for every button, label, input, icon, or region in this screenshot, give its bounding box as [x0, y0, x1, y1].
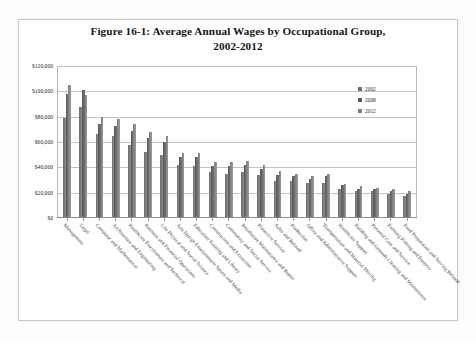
bar-group [156, 66, 172, 218]
bar-2012 [246, 161, 249, 218]
bar-2012 [392, 189, 395, 218]
bar-group [140, 66, 156, 218]
tick-mark [358, 218, 359, 221]
bar-group [383, 66, 399, 218]
figure-title-line-1: Figure 16-1: Average Annual Wages by Occ… [40, 24, 436, 39]
bar-2012 [230, 162, 233, 218]
bar-group [318, 66, 334, 218]
category-label-cell: Education Training and Library [189, 222, 205, 318]
category-label-cell: Healthcare Support [334, 222, 350, 318]
category-label-cell: Healthcare Practitioners and Technical [124, 222, 140, 318]
y-axis-tick-label: $20,000 [35, 190, 53, 196]
bar-group [59, 66, 75, 218]
bar-group [91, 66, 107, 218]
bar-2012 [182, 153, 185, 218]
y-axis-tick-label: $80,000 [35, 114, 53, 120]
bar-group [75, 66, 91, 218]
tick-mark [374, 218, 375, 221]
tick-mark [67, 218, 68, 221]
legend-swatch [358, 98, 362, 102]
y-axis-tick-label: $40,000 [35, 164, 53, 170]
tick-mark [164, 218, 165, 221]
y-axis-tick-label: $120,000 [32, 63, 53, 69]
tick-mark [131, 218, 132, 221]
bar-group [221, 66, 237, 218]
bar-group [205, 66, 221, 218]
y-axis-tick-label: $60,000 [35, 139, 53, 145]
bar-2012 [295, 174, 298, 218]
legend-entry: 2002 [358, 86, 376, 92]
bar-group [172, 66, 188, 218]
x-axis-category-labels: ManagementLegalComputer and Mathematical… [57, 222, 417, 318]
bar-group [334, 66, 350, 218]
bar-2012 [263, 165, 266, 218]
bar-2012 [279, 171, 282, 218]
category-label-cell: Protective Service [253, 222, 269, 318]
legend-entry: 2008 [358, 97, 376, 103]
legend-swatch [358, 87, 362, 91]
bar-group [399, 66, 415, 218]
tick-mark [228, 218, 229, 221]
bar-2012 [133, 124, 136, 218]
legend-label: 2008 [365, 97, 376, 103]
figure-title: Figure 16-1: Average Annual Wages by Occ… [40, 24, 436, 53]
tick-mark [245, 218, 246, 221]
category-label-cell: Production [286, 222, 302, 318]
bar-2012 [327, 174, 330, 218]
category-label-cell: Arts Design Entertainment Sports and Med… [172, 222, 188, 318]
category-label-cell: Building and Grounds Cleaning and Mainte… [350, 222, 366, 318]
category-label-cell: Legal [75, 222, 91, 318]
tick-mark [212, 218, 213, 221]
category-label-cell: Computer and Mathematical [91, 222, 107, 318]
bar-group [253, 66, 269, 218]
bar-group [189, 66, 205, 218]
chart-legend: 200220082012 [358, 86, 376, 119]
bar-2012 [85, 95, 88, 218]
legend-swatch [358, 109, 362, 113]
category-label-cell: Transportation and Material Moving [318, 222, 334, 318]
legend-label: 2012 [365, 108, 376, 114]
tick-mark [342, 218, 343, 221]
y-axis-tick-label: $100,000 [32, 88, 53, 94]
category-label-cell: Personal Care and Service [367, 222, 383, 318]
bar-2012 [360, 186, 363, 218]
bar-2012 [214, 162, 217, 218]
bar-group [124, 66, 140, 218]
bar-group [302, 66, 318, 218]
bar-2012 [311, 176, 314, 218]
tick-mark [99, 218, 100, 221]
bar-2012 [149, 132, 152, 218]
category-label: Legal [79, 222, 91, 235]
bar-2012 [344, 184, 347, 218]
bar-group [108, 66, 124, 218]
tick-mark [261, 218, 262, 221]
category-label-cell: Construction and Extraction [205, 222, 221, 318]
bar-2012 [408, 191, 411, 218]
tick-mark [148, 218, 149, 221]
category-label-cell: Office and Administrative Support [302, 222, 318, 318]
bar-2012 [68, 85, 71, 218]
bar-group [286, 66, 302, 218]
bar-2012 [166, 136, 169, 218]
category-label-cell: Architecture and Engineering [108, 222, 124, 318]
category-label-cell: Sales and Related [269, 222, 285, 318]
figure-page: Figure 16-1: Average Annual Wages by Occ… [0, 0, 476, 343]
category-label-cell: Food Preparation and Serving Related [399, 222, 415, 318]
bar-2012 [101, 117, 104, 218]
tick-mark [326, 218, 327, 221]
y-axis-tick-label: $0 [47, 215, 53, 221]
bar-group [269, 66, 285, 218]
category-label-cell: Community and Social Service [221, 222, 237, 318]
category-label-cell: Business and Financial Operations [140, 222, 156, 318]
tick-mark [390, 218, 391, 221]
bar-group [237, 66, 253, 218]
bar-2012 [198, 153, 201, 218]
tick-mark [115, 218, 116, 221]
category-label-cell: Installation Maintenance and Repair [237, 222, 253, 318]
tick-mark [293, 218, 294, 221]
tick-mark [196, 218, 197, 221]
category-label-cell: Farming Fishing and Forestry [383, 222, 399, 318]
bar-2012 [117, 119, 120, 218]
category-label-cell: Management [59, 222, 75, 318]
tick-mark [180, 218, 181, 221]
